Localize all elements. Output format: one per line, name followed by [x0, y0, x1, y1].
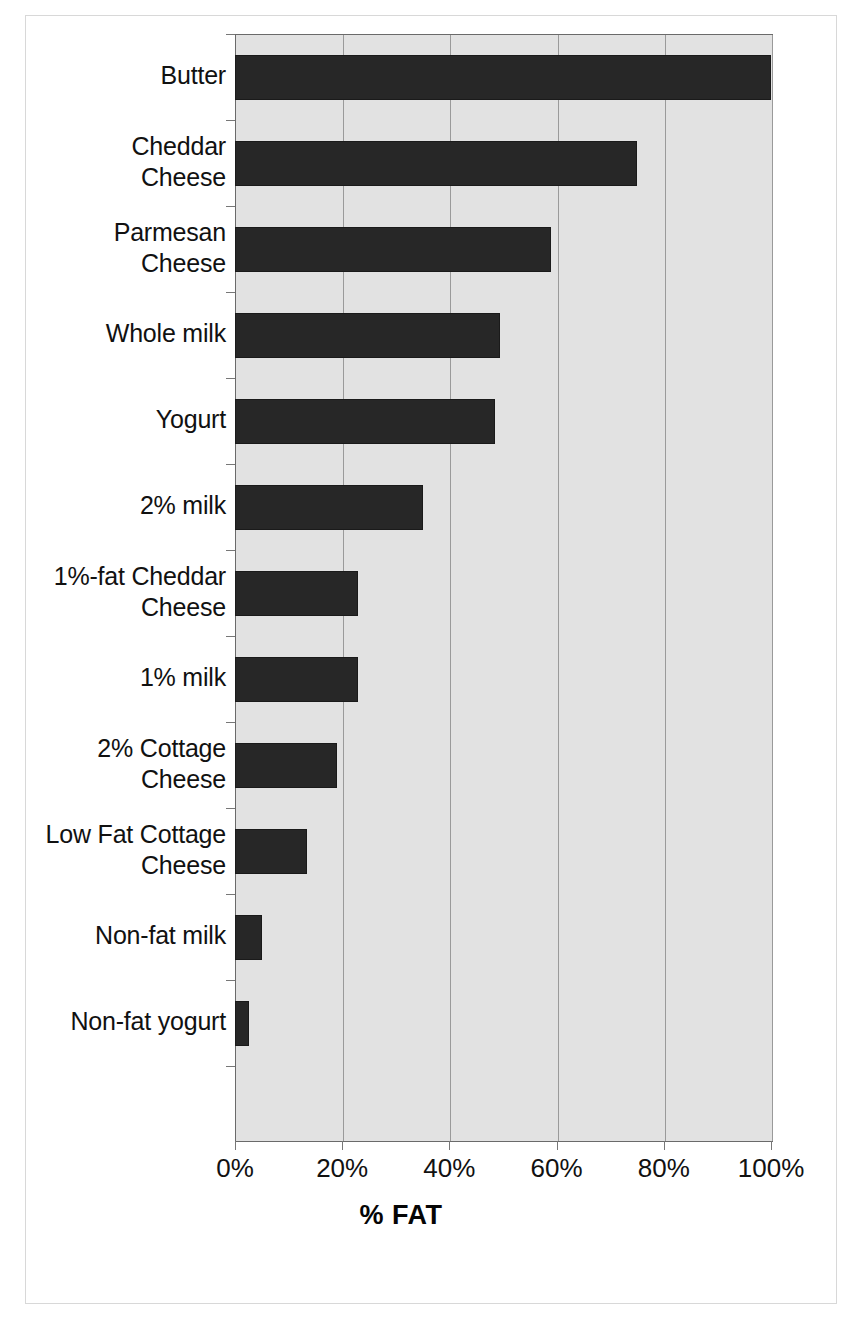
category-label: Whole milk [0, 318, 226, 349]
category-label: ParmesanCheese [0, 217, 226, 279]
category-label-line: 2% Cottage [0, 733, 226, 764]
y-axis-tick [226, 894, 235, 895]
x-axis-tick [342, 1141, 343, 1150]
x-axis-tick-label: 80% [638, 1152, 690, 1184]
gridline [772, 35, 773, 1141]
category-label-line: Cheddar [0, 131, 226, 162]
category-label-line: 1%-fat Cheddar [0, 561, 226, 592]
bar [235, 915, 262, 960]
x-axis-tick-label: 60% [531, 1152, 583, 1184]
category-label-line: Butter [0, 60, 226, 91]
y-axis-tick [226, 722, 235, 723]
x-axis-title: % FAT [0, 1200, 864, 1231]
bar [235, 313, 500, 358]
bar [235, 571, 358, 616]
y-axis-tick [226, 980, 235, 981]
x-axis-tick [557, 1141, 558, 1150]
x-axis-tick-label: 40% [423, 1152, 475, 1184]
category-label-line: Cheese [0, 162, 226, 193]
y-axis-tick [226, 292, 235, 293]
category-label: Yogurt [0, 404, 226, 435]
bar [235, 399, 495, 444]
y-axis-tick [226, 636, 235, 637]
x-axis-tick [235, 1141, 236, 1150]
x-axis-tick-label: 0% [216, 1152, 254, 1184]
bars-layer [235, 34, 771, 1140]
category-label: Butter [0, 60, 226, 91]
x-axis-tick [664, 1141, 665, 1150]
category-label: Non-fat yogurt [0, 1006, 226, 1037]
x-axis-tick [449, 1141, 450, 1150]
category-label-line: Cheese [0, 850, 226, 881]
category-label-line: Low Fat Cottage [0, 819, 226, 850]
chart-page: ButterCheddarCheeseParmesanCheeseWhole m… [0, 0, 864, 1340]
category-label: 2% milk [0, 490, 226, 521]
x-axis-title-text: % FAT [360, 1200, 443, 1231]
bar [235, 1001, 249, 1046]
bar [235, 55, 771, 100]
y-axis-tick [226, 34, 235, 35]
bar [235, 485, 423, 530]
bar [235, 743, 337, 788]
category-label-line: Cheese [0, 592, 226, 623]
y-axis-tick [226, 1066, 235, 1067]
category-label-line: Parmesan [0, 217, 226, 248]
category-label-line: Whole milk [0, 318, 226, 349]
category-label: 1% milk [0, 662, 226, 693]
category-label: Low Fat CottageCheese [0, 819, 226, 881]
category-label-line: Non-fat milk [0, 920, 226, 951]
category-label-line: Yogurt [0, 404, 226, 435]
x-axis-tick-label: 100% [738, 1152, 805, 1184]
bar [235, 227, 551, 272]
category-axis-labels: ButterCheddarCheeseParmesanCheeseWhole m… [0, 34, 226, 1140]
category-label-line: Non-fat yogurt [0, 1006, 226, 1037]
bar-chart: ButterCheddarCheeseParmesanCheeseWhole m… [0, 0, 864, 1340]
bar [235, 657, 358, 702]
y-axis-tick [226, 550, 235, 551]
y-axis-tick [226, 808, 235, 809]
y-axis-tick [226, 378, 235, 379]
y-axis-tick [226, 464, 235, 465]
x-axis-tick-label: 20% [316, 1152, 368, 1184]
bar [235, 141, 637, 186]
x-axis-tick-labels: 0%20%40%60%80%100% [0, 1152, 864, 1192]
x-axis-tick [771, 1141, 772, 1150]
bar [235, 829, 307, 874]
y-axis-tick [226, 120, 235, 121]
category-label-line: 1% milk [0, 662, 226, 693]
y-axis-tick [226, 206, 235, 207]
category-label: 1%-fat CheddarCheese [0, 561, 226, 623]
category-label: Non-fat milk [0, 920, 226, 951]
category-label-line: Cheese [0, 764, 226, 795]
category-label: CheddarCheese [0, 131, 226, 193]
category-label-line: Cheese [0, 248, 226, 279]
category-label: 2% CottageCheese [0, 733, 226, 795]
category-label-line: 2% milk [0, 490, 226, 521]
